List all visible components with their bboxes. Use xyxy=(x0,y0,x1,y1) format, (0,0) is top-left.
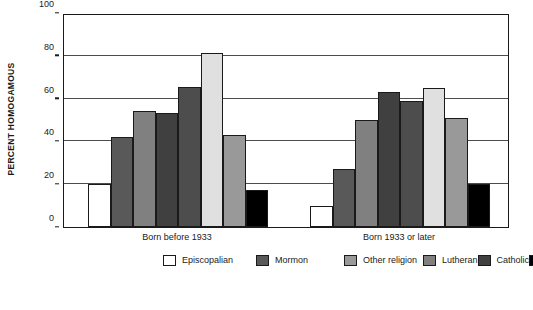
y-tick-mark-100 xyxy=(55,12,59,13)
bar-mormon-group-1 xyxy=(111,137,134,227)
bar-jewish-group-2 xyxy=(423,88,446,227)
bar-other-religion-group-2 xyxy=(445,118,468,227)
legend-swatch-icon xyxy=(256,255,269,266)
legend-swatch-icon xyxy=(163,255,176,266)
legend-swatch-icon xyxy=(423,255,436,266)
legend-item-episcopalian: Episcopalian xyxy=(163,252,256,268)
bar-lutheran-group-2 xyxy=(355,120,378,227)
y-tick-mark-60 xyxy=(55,98,59,99)
legend-item-other-religion: Other religion xyxy=(344,252,423,268)
y-axis-tick-labels: 020406080100 xyxy=(22,14,59,228)
legend-label: Catholic xyxy=(497,255,530,265)
bar-none-group-1 xyxy=(246,190,269,227)
y-tick-label-20: 20 xyxy=(44,170,54,180)
y-tick-mark-40 xyxy=(55,140,59,141)
legend-swatch-icon xyxy=(478,255,491,266)
bar-chart: PERCENT HOMOGAMOUS 020406080100 Born bef… xyxy=(0,0,533,310)
y-tick-mark-0 xyxy=(55,226,59,227)
legend-swatch-icon xyxy=(344,255,357,266)
y-axis-title: PERCENT HOMOGAMOUS xyxy=(0,0,22,238)
bar-baptist-group-1 xyxy=(178,87,201,227)
bar-catholic-group-2 xyxy=(378,92,401,227)
bar-catholic-group-1 xyxy=(156,113,179,227)
legend-item-catholic: Catholic xyxy=(478,252,530,268)
legend-swatch-icon xyxy=(529,255,533,266)
plot-area xyxy=(63,14,509,228)
gridline-80 xyxy=(64,55,508,56)
y-tick-label-0: 0 xyxy=(49,213,54,223)
legend-label: Mormon xyxy=(275,255,308,265)
bar-jewish-group-1 xyxy=(201,53,224,227)
x-axis-label-group-1: Born before 1933 xyxy=(142,232,212,242)
bar-episcopalian-group-1 xyxy=(88,184,111,227)
bar-baptist-group-2 xyxy=(400,101,423,227)
chart-legend: EpiscopalianMormonOther religionLutheran… xyxy=(163,252,423,268)
bar-episcopalian-group-2 xyxy=(310,206,333,227)
y-tick-label-60: 60 xyxy=(44,85,54,95)
y-tick-label-80: 80 xyxy=(44,42,54,52)
y-tick-label-100: 100 xyxy=(39,0,54,9)
x-axis-label-group-2: Born 1933 or later xyxy=(363,232,435,242)
bar-mormon-group-2 xyxy=(333,169,356,227)
legend-label: Episcopalian xyxy=(182,255,233,265)
y-tick-mark-80 xyxy=(55,55,59,56)
legend-label: Other religion xyxy=(363,255,417,265)
y-tick-mark-20 xyxy=(55,183,59,184)
y-axis-title-text: PERCENT HOMOGAMOUS xyxy=(6,62,16,175)
legend-item-lutheran: Lutheran xyxy=(423,252,478,268)
legend-item-mormon: Mormon xyxy=(256,252,344,268)
legend-item-none: None xyxy=(529,252,533,268)
bar-other-religion-group-1 xyxy=(223,135,246,227)
bar-none-group-2 xyxy=(468,184,491,227)
bar-lutheran-group-1 xyxy=(133,111,156,227)
legend-label: Lutheran xyxy=(442,255,478,265)
y-tick-label-40: 40 xyxy=(44,127,54,137)
